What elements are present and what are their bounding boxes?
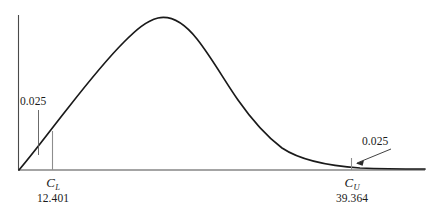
distribution-plot <box>0 0 442 210</box>
right-tail-pointer-line <box>357 149 391 163</box>
lower-critical-symbol: CL <box>46 176 59 189</box>
left-tail-area-label: 0.025 <box>20 96 46 108</box>
lower-critical-value: 12.401 <box>37 193 69 205</box>
right-tail-area-label: 0.025 <box>362 136 388 148</box>
upper-critical-symbol-letter: C <box>345 175 354 190</box>
upper-critical-value: 39.364 <box>336 193 368 205</box>
lower-critical-symbol-subscript: L <box>55 182 60 192</box>
lower-critical-symbol-letter: C <box>46 175 55 190</box>
upper-critical-symbol: CU <box>345 176 360 189</box>
chi-square-critical-value-figure: 0.025 0.025 CL 12.401 CU 39.364 <box>0 0 442 210</box>
upper-critical-symbol-subscript: U <box>354 182 360 192</box>
